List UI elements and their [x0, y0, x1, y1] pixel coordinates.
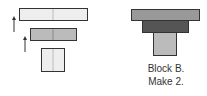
up-arrow-icon [12, 16, 16, 32]
caption-line-1: Block B. [138, 62, 194, 75]
assembled-view [132, 10, 200, 56]
exploded-base-block [42, 49, 65, 72]
caption-line-2: Make 2. [138, 75, 194, 88]
exploded-top-strip [20, 9, 88, 21]
up-arrow-icon [23, 36, 27, 52]
exploded-middle-strip [31, 29, 77, 41]
assembled-base-block [154, 33, 177, 56]
assembled-middle-strip [143, 21, 189, 33]
assembled-top-strip [132, 10, 200, 21]
block-caption: Block B. Make 2. [138, 62, 194, 88]
